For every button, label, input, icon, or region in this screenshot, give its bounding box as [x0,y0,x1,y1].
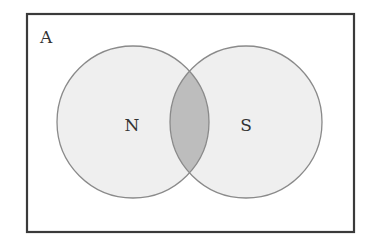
venn-diagram: A N S [0,0,372,247]
universe-label: A [39,27,53,47]
set-s-label: S [240,115,252,135]
set-n-label: N [125,115,140,135]
